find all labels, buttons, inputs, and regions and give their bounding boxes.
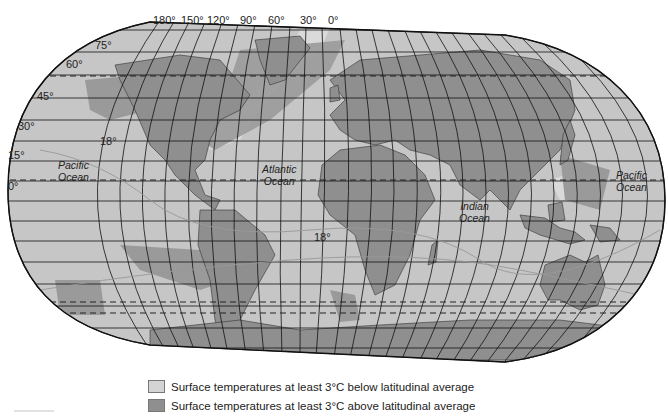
pacific-ocean-west-label: Pacific Ocean [58,159,89,183]
longitude-label-120: 120° [207,15,230,26]
longitude-label-0: 0° [328,15,339,26]
isotherm-label-north: 18° [100,136,117,147]
latitude-label-45: 45° [37,91,54,102]
longitude-label-60: 60° [268,15,285,26]
new-zealand [625,328,640,352]
world-map [0,0,668,417]
latitude-label-0: 0° [8,181,19,192]
legend-swatch-dark [148,399,165,412]
legend-item-below-average: Surface temperatures at least 3°C below … [148,377,475,396]
borneo [548,202,565,222]
british-isles [330,85,340,102]
legend-swatch-light [148,380,165,393]
latitude-label-15: 15° [8,150,25,161]
pacific-ocean-east-label: Pacific Ocean [616,169,647,193]
longitude-label-150: 150° [181,15,204,26]
longitude-label-90: 90° [240,15,257,26]
latitude-label-75: 75° [95,40,112,51]
latitude-label-60: 60° [66,59,83,70]
map-legend: Surface temperatures at least 3°C below … [148,377,475,415]
indian-ocean-label: Indian Ocean [459,200,490,224]
longitude-label-180: 180° [153,15,176,26]
latitude-label-30: 30° [18,121,35,132]
legend-item-above-average: Surface temperatures at least 3°C above … [148,396,475,415]
atlantic-ocean-label: Atlantic Ocean [262,163,296,187]
faint-caption-mark [14,410,54,412]
isotherm-label-south: 18° [314,232,331,243]
longitude-label-30: 30° [300,15,317,26]
